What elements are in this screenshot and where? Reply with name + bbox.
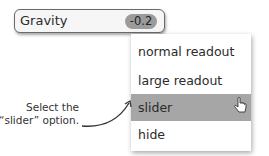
annotation-arrow-icon — [0, 0, 269, 156]
hand-pointer-cursor-icon — [233, 97, 249, 115]
